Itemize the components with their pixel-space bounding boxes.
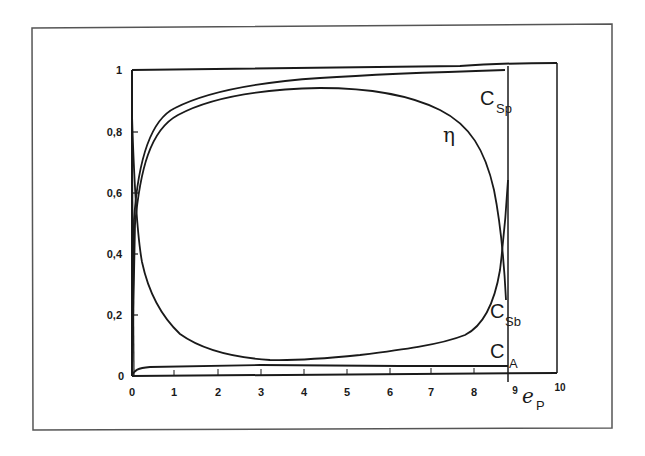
y-tick-label: 0,2 xyxy=(107,309,122,321)
x-tick-label: 6 xyxy=(387,386,393,398)
x-tick-label: 10 xyxy=(554,382,566,393)
curve-labels: C Sp η C Sb C A xyxy=(443,87,521,371)
y-tick-labels: 1 0,8 0,6 0,4 0,2 0 xyxy=(107,64,124,382)
x-tick-label: 3 xyxy=(258,386,264,398)
x-tick-label: 1 xyxy=(171,386,177,398)
y-tick-label: 0,6 xyxy=(107,187,122,199)
y-tick-label: 0,4 xyxy=(107,248,123,260)
figure-canvas: 1 0,8 0,6 0,4 0,2 0 0 1 2 3 4 5 6 7 8 9 … xyxy=(0,0,645,456)
x-axis xyxy=(132,373,557,376)
plot-axes xyxy=(132,63,557,382)
label-csp-main: C xyxy=(480,87,494,109)
x-tick-label: 5 xyxy=(344,386,350,398)
label-csb-main: C xyxy=(490,300,504,322)
label-eta: η xyxy=(443,123,455,147)
x-tick-label: 9 xyxy=(512,385,518,396)
label-csb-sub: Sb xyxy=(505,314,521,329)
x-tick-label: 8 xyxy=(471,386,477,398)
label-ca-sub: A xyxy=(509,356,518,371)
y-tick-label: 0 xyxy=(118,370,124,382)
x-axis-label-sub: P xyxy=(536,398,545,413)
x-tick-labels: 0 1 2 3 4 5 6 7 8 9 10 xyxy=(129,382,566,398)
x-tick-label: 0 xyxy=(129,386,135,398)
x-tick-label: 4 xyxy=(301,386,308,398)
curve-csb xyxy=(132,115,508,360)
y-tick-label: 0,8 xyxy=(107,126,122,138)
y-tick-label: 1 xyxy=(116,64,122,76)
upper-bound-line xyxy=(132,63,557,70)
x-tick-label: 2 xyxy=(215,386,221,398)
x-axis-label: e P xyxy=(522,384,545,413)
x-axis-label-main: e xyxy=(522,384,534,408)
curves xyxy=(132,70,508,376)
label-ca-main: C xyxy=(490,340,504,362)
label-csp-sub: Sp xyxy=(496,101,512,116)
x-tick-label: 7 xyxy=(428,386,434,398)
